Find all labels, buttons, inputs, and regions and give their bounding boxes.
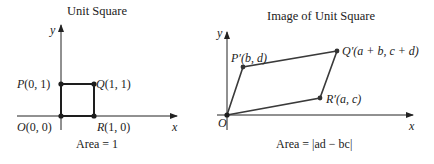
label-q-prime: Q′(a + b, c + d) [342, 45, 419, 57]
right-title: Image of Unit Square [267, 10, 375, 23]
left-title: Unit Square [67, 5, 127, 18]
label-q: Q(1, 1) [96, 78, 131, 90]
left-x-axis-label: x [172, 121, 177, 133]
label-p-prime: P′(b, d) [231, 52, 267, 64]
point-o [58, 113, 63, 118]
left-y-axis-label: y [50, 24, 55, 36]
label-o: O(0, 0) [17, 121, 52, 133]
point-p [58, 81, 63, 86]
label-p: P(0, 1) [17, 78, 50, 90]
right-caption: Area = |ad − bc| [276, 138, 352, 150]
unit-square [58, 81, 96, 118]
diagram-canvas [0, 0, 434, 164]
point-q-prime [335, 49, 340, 54]
point-r [91, 113, 96, 118]
label-r-prime: R′(a, c) [326, 93, 361, 105]
label-o-prime: O [218, 117, 227, 129]
point-r-prime [318, 96, 323, 101]
left-caption: Area = 1 [76, 138, 118, 150]
point-p-prime [241, 65, 246, 70]
right-x-axis-label: x [409, 120, 414, 132]
label-r: R(1, 0) [97, 121, 130, 133]
right-y-axis-label: y [217, 27, 222, 39]
